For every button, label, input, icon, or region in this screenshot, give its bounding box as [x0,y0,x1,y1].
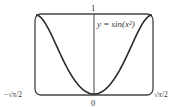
y-tick-label-top: 1 [91,3,96,13]
x-tick-label-right: √π/2 [154,90,168,99]
function-label: y = sin(x²) [96,19,135,29]
function-plot: 1 y = sin(x²) −√π/2 0 √π/2 [0,0,171,108]
x-tick-label-left: −√π/2 [4,90,22,99]
x-tick-label-center: 0 [91,98,95,108]
